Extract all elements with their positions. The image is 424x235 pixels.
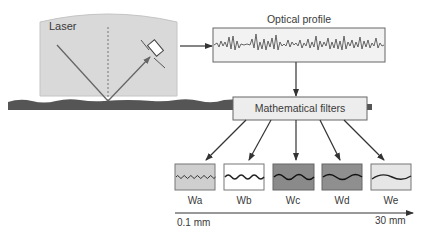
scale-min-label: 0.1 mm xyxy=(177,217,210,228)
optical-profile-label: Optical profile xyxy=(267,13,331,25)
measurement-diagram xyxy=(0,0,424,235)
waviness-box-wa xyxy=(175,164,216,190)
filters-label: Mathematical filters xyxy=(255,102,345,114)
waviness-box-wd xyxy=(322,164,362,190)
laser-label: Laser xyxy=(49,20,77,32)
filter-output-arrows xyxy=(206,120,384,160)
waviness-label-we: We xyxy=(384,195,399,206)
waviness-box-wc xyxy=(273,164,314,190)
waviness-box-wb xyxy=(224,164,264,190)
optical-profile-box xyxy=(213,28,385,62)
waviness-label-wc: Wc xyxy=(286,195,300,206)
waviness-label-wa: Wa xyxy=(188,195,203,206)
waviness-label-wd: Wd xyxy=(335,195,350,206)
surface-end-stub xyxy=(367,104,372,110)
waviness-box-we xyxy=(371,164,411,190)
scale-max-label: 30 mm xyxy=(375,215,406,226)
waviness-label-wb: Wb xyxy=(237,195,252,206)
